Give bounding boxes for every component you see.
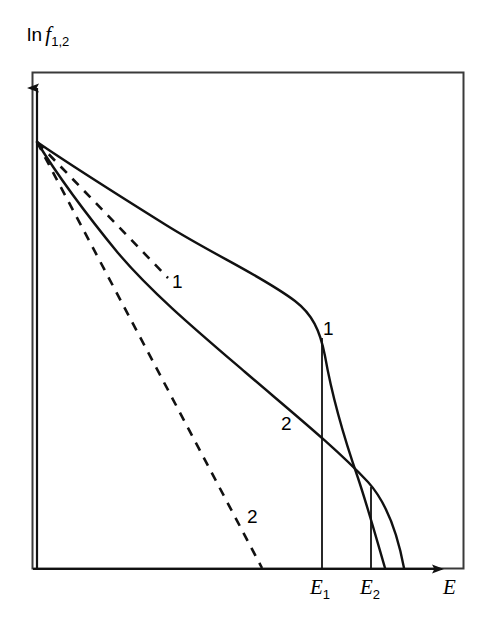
curve-2 [37,142,404,568]
figure-container: lnf1,2 E1 E2 E 1 2 1 2 [0,0,490,630]
x-tick-subscript-E1: 1 [323,587,330,602]
tangent-line-1 [37,142,168,278]
plot-frame [33,73,464,569]
y-axis-label: lnf1,2 [27,22,69,49]
curve-1 [37,142,385,568]
y-axis-label-symbol: f [42,22,51,46]
y-axis-label-prefix: ln [27,24,42,45]
x-tick-symbol-E1: E [310,575,323,599]
tangent-1-label: 1 [172,271,183,293]
curve-2-label: 2 [281,413,292,435]
x-axis-label: E [443,575,456,600]
x-tick-subscript-E2: 2 [373,587,380,602]
x-tick-label-E1: E1 [310,575,330,602]
x-tick-label-E2: E2 [360,575,380,602]
y-axis-label-subscript: 1,2 [51,34,69,49]
plot-canvas [0,0,490,630]
curve-1-label: 1 [323,318,334,340]
tangent-2-label: 2 [247,506,258,528]
tangent-line-2 [37,142,262,568]
x-tick-symbol-E2: E [360,575,373,599]
